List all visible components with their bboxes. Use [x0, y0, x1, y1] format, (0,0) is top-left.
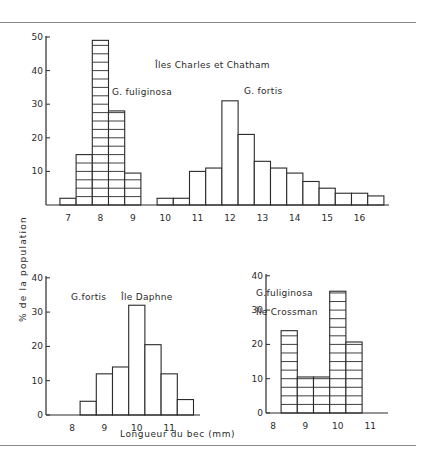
- histogram-bar: [254, 161, 270, 205]
- x-tick-label: 11: [192, 213, 203, 223]
- histogram-bar: [352, 193, 368, 205]
- histogram-bar: [330, 291, 346, 413]
- y-tick-label: 30: [32, 307, 44, 317]
- y-tick-label: 50: [32, 32, 44, 42]
- histogram-bar: [157, 198, 173, 205]
- histogram-bar: [113, 367, 129, 415]
- histogram-bar: [80, 401, 96, 415]
- y-tick-label: 40: [32, 66, 44, 76]
- x-tick-label: 16: [354, 213, 366, 223]
- histogram-bar: [125, 173, 141, 205]
- histogram-bar: [281, 331, 297, 413]
- histogram-bar: [109, 111, 125, 205]
- y-tick-label: 40: [32, 273, 44, 283]
- label-daphne-species: G.fortis: [71, 292, 106, 302]
- y-tick-label: 30: [32, 99, 44, 109]
- y-tick-label: 20: [252, 339, 264, 349]
- histogram-bar: [96, 374, 112, 415]
- histogram-bar: [145, 345, 161, 415]
- histogram-bar: [335, 193, 351, 205]
- y-tick-label: 20: [32, 133, 44, 143]
- y-tick-label: 20: [32, 341, 44, 351]
- x-tick-label: 14: [289, 213, 301, 223]
- histogram-bar: [76, 155, 92, 205]
- y-tick-label: 10: [252, 374, 264, 384]
- x-tick-label: 13: [257, 213, 268, 223]
- label-daphne-island: Île Daphne: [120, 291, 173, 302]
- histogram-bar: [177, 400, 193, 415]
- histogram-bar: [297, 377, 313, 413]
- label-crossman-island: Île Crossman: [255, 306, 318, 317]
- histogram-bar: [173, 198, 189, 205]
- x-tick-label: 11: [364, 421, 375, 431]
- histogram-bar: [222, 101, 238, 205]
- histogram-bar: [190, 171, 206, 205]
- histogram-bar: [206, 168, 222, 205]
- y-tick-label: 0: [257, 408, 263, 418]
- histogram-bar: [161, 374, 177, 415]
- title-charles-chatham: Îles Charles et Chatham: [154, 59, 270, 70]
- histogram-bar: [319, 188, 335, 205]
- y-axis-label: % de la population: [18, 216, 28, 322]
- x-tick-label: 9: [303, 421, 309, 431]
- histogram-bar: [303, 181, 319, 205]
- x-tick-label: 9: [130, 213, 136, 223]
- y-tick-label: 40: [252, 271, 264, 281]
- x-tick-label: 10: [332, 421, 344, 431]
- label-crossman-species: G.fuliginosa: [256, 288, 313, 298]
- label-top-fortis: G. fortis: [244, 86, 283, 96]
- y-tick-label: 0: [37, 410, 43, 420]
- x-tick-label: 8: [270, 421, 276, 431]
- x-tick-label: 9: [102, 423, 108, 433]
- x-tick-label: 8: [98, 213, 104, 223]
- histogram-figure: 102030405078910111213141516 010203040891…: [0, 0, 432, 459]
- histogram-bar: [271, 168, 287, 205]
- x-tick-label: 7: [65, 213, 71, 223]
- histogram-bar: [314, 377, 330, 413]
- histogram-bar: [129, 305, 145, 415]
- histogram-bar: [368, 196, 384, 205]
- label-top-fuliginosa: G. fuliginosa: [112, 87, 172, 97]
- x-tick-label: 10: [159, 213, 171, 223]
- histogram-bar: [60, 198, 76, 205]
- x-tick-label: 15: [321, 213, 332, 223]
- x-axis-label: Longueur du bec (mm): [120, 429, 235, 439]
- histogram-bar: [92, 40, 108, 205]
- histogram-bar: [238, 134, 254, 205]
- x-tick-label: 8: [69, 423, 75, 433]
- y-tick-label: 10: [32, 166, 44, 176]
- histogram-bar: [287, 173, 303, 205]
- x-tick-label: 12: [224, 213, 235, 223]
- panel-daphne: 010203040891011: [32, 273, 200, 433]
- histogram-bar: [346, 342, 362, 413]
- y-tick-label: 10: [32, 376, 44, 386]
